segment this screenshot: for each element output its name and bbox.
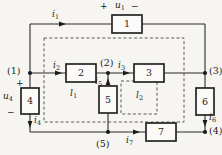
current-i1-subscript: 1	[55, 13, 59, 21]
voltage-u4-minus-sign: −	[7, 108, 15, 117]
voltage-u1-subscript: 1	[121, 4, 125, 12]
node-3-label: (3)	[209, 66, 222, 76]
voltage-u4-subscript: 4	[9, 95, 13, 103]
current-i1-arrow	[59, 22, 66, 27]
current-i4-subscript: 4	[37, 119, 41, 127]
current-i1-label: i1	[52, 10, 59, 20]
element-3-label: 3	[134, 64, 164, 82]
current-i4-label: i4	[34, 116, 41, 126]
current-i5-arrow	[106, 78, 111, 85]
current-i7-label: i7	[126, 136, 133, 146]
loop-l1-label: l1	[70, 89, 77, 99]
node-4-dot	[203, 130, 207, 134]
element-6-label: 6	[196, 88, 214, 115]
current-i3-label: i3	[118, 61, 125, 71]
current-i7-arrow	[133, 130, 140, 135]
current-i5-subscript: 5	[98, 80, 102, 88]
circuit-diagram: (1) (2) (3) (4) (5) 1 2 3 4 5 6 7 i1 i2 …	[0, 0, 222, 155]
loop-l1-subscript: 1	[73, 92, 77, 100]
node-5-label: (5)	[96, 139, 109, 149]
current-i6-arrow	[203, 120, 208, 127]
voltage-u4-label: u4	[3, 92, 13, 102]
current-i6-subscript: 6	[212, 116, 216, 124]
element-7-label: 7	[146, 123, 176, 141]
voltage-u1-minus-sign: −	[131, 2, 139, 11]
current-i5-label: i5	[95, 77, 102, 87]
loop-l2-subscript: 2	[139, 94, 143, 102]
voltage-u1-plus-sign: +	[100, 2, 108, 11]
circuit-drawing	[0, 0, 222, 155]
element-1-label: 1	[112, 15, 142, 33]
node-5-dot	[106, 130, 110, 134]
node-1-dot	[28, 71, 32, 75]
node-2-label: (2)	[100, 58, 113, 68]
node-1-label: (1)	[7, 66, 20, 76]
current-i3-subscript: 3	[121, 64, 125, 72]
element-4-label: 4	[21, 88, 39, 114]
node-2-dot	[106, 71, 110, 75]
node-4-label: (4)	[209, 126, 222, 136]
current-i7-subscript: 7	[129, 139, 133, 147]
current-i6-label: i6	[209, 113, 216, 123]
loop-l2-label: l2	[136, 91, 143, 101]
current-i2-label: i2	[53, 61, 60, 71]
current-i2-subscript: 2	[56, 64, 60, 72]
node-3-dot	[203, 71, 207, 75]
element-5-label: 5	[99, 86, 117, 113]
element-2-label: 2	[66, 64, 96, 82]
voltage-u4-plus-sign: +	[16, 79, 24, 88]
current-i4-arrow	[28, 121, 33, 128]
voltage-u1-label: u1	[115, 1, 125, 11]
